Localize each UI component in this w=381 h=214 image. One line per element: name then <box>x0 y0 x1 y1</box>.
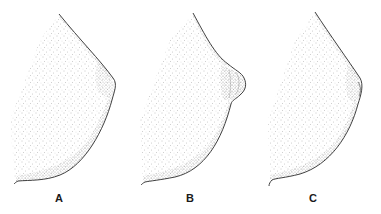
panel-label-c: C <box>309 192 317 204</box>
panel-a-drawing <box>0 0 130 190</box>
figure: A B C <box>0 0 381 214</box>
panel-c-drawing <box>250 0 381 190</box>
panel-label-b: B <box>186 192 194 204</box>
panel-b-drawing <box>130 0 255 190</box>
panel-label-a: A <box>55 192 63 204</box>
illustration-canvas <box>0 0 381 214</box>
